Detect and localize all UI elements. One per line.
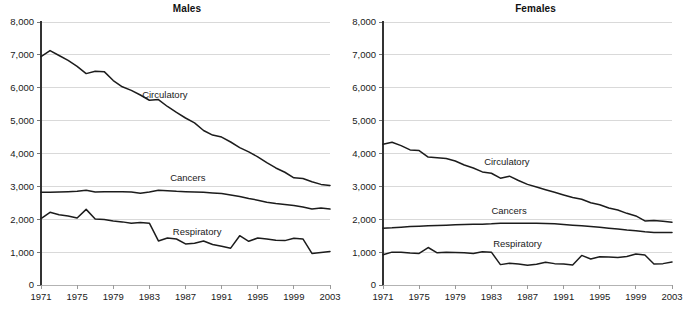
y-tick-label: 3,000 xyxy=(10,181,34,192)
x-tick-label: 1971 xyxy=(30,291,51,302)
y-tick-label: 1,000 xyxy=(352,247,376,258)
series-label-respiratory: Respiratory xyxy=(493,238,542,249)
dual-line-chart-figure: Males 01,0002,0003,0004,0005,0006,0007,0… xyxy=(0,0,695,312)
x-tick-label: 1995 xyxy=(589,291,610,302)
series-label-circulatory: Circulatory xyxy=(142,89,188,100)
series-label-respiratory: Respiratory xyxy=(173,226,222,237)
chart-panel-females: Females 01,0002,0003,0004,0005,0006,0007… xyxy=(348,0,695,312)
y-tick-label: 5,000 xyxy=(10,115,34,126)
y-tick-label: 6,000 xyxy=(352,82,376,93)
y-tick-label: 6,000 xyxy=(10,82,34,93)
x-tick-label: 1975 xyxy=(409,291,430,302)
series-label-circulatory: Circulatory xyxy=(484,156,530,167)
y-tick-label: 8,000 xyxy=(352,16,376,27)
plot-area-females: 01,0002,0003,0004,0005,0006,0007,0008,00… xyxy=(348,0,695,312)
x-tick-label: 1983 xyxy=(481,291,502,302)
x-tick-label: 1971 xyxy=(372,291,393,302)
series-line-circulatory xyxy=(383,142,672,222)
x-tick-label: 1991 xyxy=(553,291,574,302)
y-tick-label: 7,000 xyxy=(352,49,376,60)
x-tick-label: 1999 xyxy=(625,291,646,302)
y-tick-label: 1,000 xyxy=(10,247,34,258)
x-tick-label: 2003 xyxy=(319,291,340,302)
series-label-cancers: Cancers xyxy=(170,172,206,183)
y-tick-label: 4,000 xyxy=(10,148,34,159)
series-line-cancers xyxy=(383,223,672,232)
x-tick-label: 1979 xyxy=(103,291,124,302)
y-tick-label: 2,000 xyxy=(352,214,376,225)
plot-area-males: 01,0002,0003,0004,0005,0006,0007,0008,00… xyxy=(0,0,348,312)
x-tick-label: 1979 xyxy=(445,291,466,302)
y-tick-label: 4,000 xyxy=(352,148,376,159)
x-tick-label: 1991 xyxy=(211,291,232,302)
y-tick-label: 8,000 xyxy=(10,16,34,27)
series-line-cancers xyxy=(41,190,330,209)
y-tick-label: 7,000 xyxy=(10,49,34,60)
x-tick-label: 1995 xyxy=(247,291,268,302)
y-tick-label: 0 xyxy=(371,279,376,290)
series-line-circulatory xyxy=(41,51,330,186)
y-tick-label: 3,000 xyxy=(352,181,376,192)
x-tick-label: 2003 xyxy=(661,291,682,302)
series-line-respiratory xyxy=(383,248,672,266)
x-tick-label: 1987 xyxy=(175,291,196,302)
y-tick-label: 5,000 xyxy=(352,115,376,126)
y-tick-label: 2,000 xyxy=(10,214,34,225)
x-tick-label: 1987 xyxy=(517,291,538,302)
x-tick-label: 1999 xyxy=(283,291,304,302)
series-label-cancers: Cancers xyxy=(491,205,527,216)
x-tick-label: 1983 xyxy=(139,291,160,302)
x-tick-label: 1975 xyxy=(67,291,88,302)
chart-panel-males: Males 01,0002,0003,0004,0005,0006,0007,0… xyxy=(0,0,348,312)
y-tick-label: 0 xyxy=(29,279,34,290)
